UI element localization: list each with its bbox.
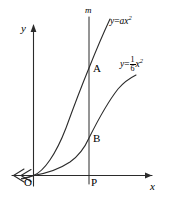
- x-axis-arrowhead: [145, 173, 152, 179]
- y-axis-arrowhead: [31, 24, 37, 32]
- point-b-label: B: [93, 133, 100, 144]
- point-p-label: P: [91, 177, 97, 188]
- equation-steep-exponent: 2: [129, 14, 132, 21]
- fraction-numerator: 1: [130, 56, 136, 64]
- figure-canvas: [0, 0, 176, 201]
- equation-steep-parabola: y=ax2: [110, 15, 132, 27]
- equation-shallow-exponent: 2: [140, 57, 143, 64]
- fraction-denominator: 6: [130, 64, 136, 73]
- line-m-label: m: [85, 6, 92, 15]
- equation-shallow-parabola: y=16x2: [120, 56, 143, 74]
- curve-steep-parabola: [22, 19, 111, 179]
- math-figure: y x O m P A B y=ax2 y=16x2: [0, 0, 176, 201]
- point-a-label: A: [93, 63, 101, 74]
- x-axis-label: x: [150, 181, 155, 192]
- curve-shallow-parabola: [22, 75, 137, 179]
- y-axis-label: y: [21, 23, 26, 34]
- equation-shallow-fraction: 16: [130, 56, 136, 74]
- origin-label: O: [24, 177, 32, 188]
